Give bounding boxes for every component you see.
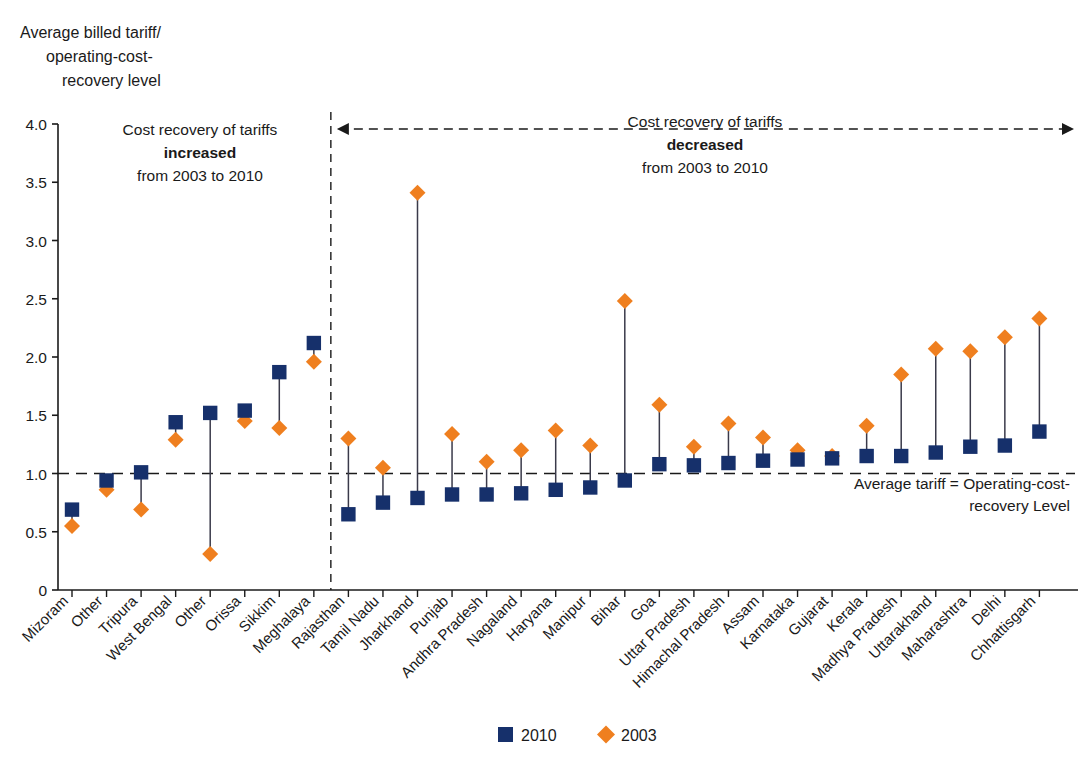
arrow-head-left-icon: [337, 123, 349, 135]
data-point-pair: [99, 473, 115, 498]
marker-2003: [617, 293, 633, 309]
legend-marker-2003: [597, 726, 615, 744]
y-axis-title-line: Average billed tariff/: [20, 24, 161, 41]
annotation-left-line: increased: [164, 144, 236, 161]
chart-container: Average billed tariff/operating-cost-rec…: [0, 0, 1085, 775]
data-point-pair: [1031, 311, 1047, 439]
arrow-head-right-icon: [1062, 123, 1074, 135]
y-axis-title-line: recovery level: [62, 72, 161, 89]
data-point-pair: [168, 415, 184, 448]
marker-2010: [479, 487, 493, 501]
marker-2003: [893, 366, 909, 382]
y-axis-tick-label: 1.5: [25, 407, 47, 424]
marker-2003: [271, 420, 287, 436]
marker-2003: [306, 354, 322, 370]
data-point-pair: [513, 442, 529, 500]
legend-label-2003: 2003: [621, 727, 657, 744]
y-axis-tick-label: 1.0: [25, 466, 47, 483]
marker-2003: [548, 422, 564, 438]
x-axis-category-label: Bihar: [587, 592, 624, 629]
data-point-pair: [479, 454, 495, 502]
annotation-right-line: decreased: [667, 136, 744, 153]
y-axis: 00.51.01.52.02.53.03.54.0: [25, 116, 58, 599]
marker-2003: [582, 438, 598, 454]
x-axis-category-label: Orissa: [201, 592, 244, 635]
tariff-cost-recovery-chart: Average billed tariff/operating-cost-rec…: [0, 0, 1085, 775]
reference-line-label: recovery Level: [969, 497, 1070, 514]
data-point-pair: [582, 438, 598, 495]
data-point-pair: [790, 442, 806, 467]
y-axis-tick-label: 2.5: [25, 291, 47, 308]
y-axis-tick-label: 0: [38, 582, 47, 599]
marker-2010: [168, 415, 182, 429]
data-point-pair: [410, 185, 426, 505]
marker-2010: [859, 449, 873, 463]
y-axis-title-line: operating-cost-: [46, 48, 153, 65]
marker-2010: [998, 438, 1012, 452]
reference-line-label: Average tariff = Operating-cost-: [854, 475, 1070, 492]
data-point-pair: [720, 415, 736, 470]
marker-2010: [134, 465, 148, 479]
marker-2010: [652, 457, 666, 471]
marker-2010: [341, 507, 355, 521]
data-point-pair: [340, 431, 356, 522]
marker-2010: [410, 491, 424, 505]
data-point-pair: [617, 293, 633, 488]
legend: 20102003: [498, 726, 657, 745]
x-axis-labels: MizoramOtherTripuraWest BengalOtherOriss…: [18, 592, 1038, 691]
marker-2010: [65, 502, 79, 516]
legend-marker-2010: [498, 727, 513, 742]
marker-2010: [790, 452, 804, 466]
marker-2010: [721, 456, 735, 470]
y-axis-tick-label: 2.0: [25, 349, 47, 366]
marker-2003: [202, 546, 218, 562]
marker-2010: [307, 336, 321, 350]
marker-2010: [929, 445, 943, 459]
marker-2010: [756, 453, 770, 467]
data-point-pair: [64, 502, 80, 534]
marker-2010: [583, 480, 597, 494]
marker-2003: [410, 185, 426, 201]
data-point-pair: [893, 366, 909, 463]
x-axis-category-label: Gujarat: [784, 592, 831, 639]
marker-2010: [963, 440, 977, 454]
data-point-pair: [202, 406, 218, 562]
y-axis-tick-label: 3.5: [25, 174, 47, 191]
data-point-pair: [755, 429, 771, 467]
data-point-pair: [928, 341, 944, 460]
marker-2003: [755, 429, 771, 445]
marker-2010: [1032, 424, 1046, 438]
data-point-pair: [306, 336, 322, 370]
marker-2003: [513, 442, 529, 458]
legend-label-2010: 2010: [521, 727, 557, 744]
y-axis-tick-label: 3.0: [25, 233, 47, 250]
annotation-right: Cost recovery of tariffsdecreasedfrom 20…: [337, 113, 1074, 176]
data-point-pair: [859, 418, 875, 463]
annotation-right-line: Cost recovery of tariffs: [628, 113, 783, 130]
data-series-layer: [64, 185, 1047, 562]
data-point-pair: [271, 365, 287, 436]
marker-2003: [133, 502, 149, 518]
marker-2010: [238, 403, 252, 417]
data-point-pair: [237, 403, 253, 429]
y-axis-title: Average billed tariff/operating-cost-rec…: [20, 24, 161, 89]
marker-2003: [686, 439, 702, 455]
marker-2010: [549, 483, 563, 497]
marker-2010: [894, 449, 908, 463]
marker-2003: [1031, 311, 1047, 327]
marker-2003: [168, 432, 184, 448]
marker-2010: [514, 486, 528, 500]
annotation-left-line: from 2003 to 2010: [137, 167, 263, 184]
marker-2010: [687, 458, 701, 472]
data-point-pair: [997, 329, 1013, 453]
marker-2010: [825, 451, 839, 465]
marker-2010: [272, 365, 286, 379]
marker-2010: [203, 406, 217, 420]
x-axis-category-label: Mizoram: [18, 592, 71, 645]
marker-2003: [997, 329, 1013, 345]
data-point-pair: [548, 422, 564, 497]
y-axis-tick-label: 0.5: [25, 524, 47, 541]
y-axis-tick-label: 4.0: [25, 116, 47, 133]
data-point-pair: [962, 343, 978, 454]
marker-2010: [618, 473, 632, 487]
